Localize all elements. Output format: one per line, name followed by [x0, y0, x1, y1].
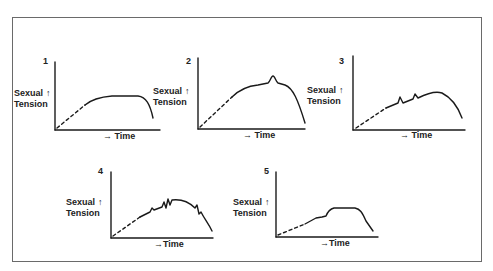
panel-4-curve	[140, 199, 212, 231]
panel-3-xlabel: → Time	[400, 130, 432, 140]
panel-4-ylabel: Sexual↑ Tension	[66, 197, 103, 219]
panel-2-xlabel-text: Time	[255, 130, 276, 140]
panel-1-dashed-curve	[57, 105, 85, 128]
panel-1-number: 1	[43, 56, 48, 66]
panel-2-curve	[232, 76, 305, 123]
up-arrow-icon: ↑	[46, 88, 51, 98]
panel-5-xlabel-text: Time	[329, 238, 350, 248]
panel-2-number: 2	[186, 56, 191, 66]
panel-1-ylabel-line2: Tension	[14, 99, 48, 109]
panel-1-xlabel-text: Time	[115, 131, 136, 141]
panel-5-curve	[305, 208, 373, 231]
panel-5-dashed-curve	[278, 224, 305, 235]
panel-4-xlabel: →Time	[154, 239, 184, 249]
panel-4-number: 4	[98, 166, 103, 176]
panel-4-xlabel-text: Time	[163, 239, 184, 249]
panel-2-axes	[198, 58, 305, 129]
panel-4-dashed-curve	[113, 217, 140, 236]
panel-3-number: 3	[339, 56, 344, 66]
panel-2-ylabel-line2: Tension	[153, 97, 187, 107]
right-arrow-icon: →	[154, 239, 163, 249]
panel-3-curve	[386, 92, 462, 118]
panel-3-axes	[353, 56, 465, 130]
panel-2-ylabel: Sexual↑ Tension	[153, 86, 190, 108]
panel-3-xlabel-text: Time	[412, 130, 433, 140]
panel-2-ylabel-line1: Sexual	[153, 86, 182, 96]
panel-5-axes	[276, 172, 378, 237]
panel-2-xlabel: → Time	[243, 130, 275, 140]
panel-1-xlabel: → Time	[103, 131, 135, 141]
panel-5-number: 5	[264, 166, 269, 176]
right-arrow-icon: →	[320, 238, 329, 248]
up-arrow-icon: ↑	[98, 197, 103, 207]
panel-5-xlabel: →Time	[320, 238, 350, 248]
panel-4-ylabel-line2: Tension	[66, 208, 100, 218]
panel-3-ylabel: Sexual↑ Tension	[307, 85, 344, 107]
up-arrow-icon: ↑	[185, 86, 190, 96]
panel-3-dashed-curve	[356, 108, 386, 128]
panel-3-ylabel-line1: Sexual	[307, 85, 336, 95]
panel-2-dashed-curve	[200, 97, 232, 127]
panel-1-ylabel: Sexual↑ Tension	[14, 88, 51, 110]
right-arrow-icon: →	[243, 130, 252, 140]
panel-4-ylabel-line1: Sexual	[66, 197, 95, 207]
up-arrow-icon: ↑	[339, 85, 344, 95]
right-arrow-icon: →	[400, 130, 409, 140]
panel-5-ylabel-line1: Sexual	[233, 197, 262, 207]
panel-3-ylabel-line2: Tension	[307, 96, 341, 106]
panel-1-ylabel-line1: Sexual	[14, 88, 43, 98]
panel-5-ylabel-line2: Tension	[233, 208, 267, 218]
panel-1-curve	[85, 96, 153, 118]
right-arrow-icon: →	[103, 131, 112, 141]
panel-5-ylabel: Sexual↑ Tension	[233, 197, 270, 219]
up-arrow-icon: ↑	[265, 197, 270, 207]
